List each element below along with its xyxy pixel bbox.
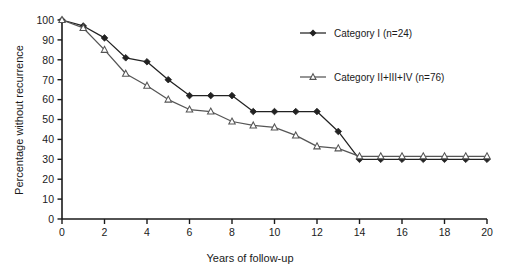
x-axis-tick-label: 16 [396, 226, 408, 238]
x-axis-tick-label: 8 [229, 226, 235, 238]
y-axis-tick-label: 10 [42, 193, 54, 205]
y-axis-title: Percentage without recurrence [13, 45, 25, 195]
x-axis-tick-label: 6 [187, 226, 193, 238]
y-axis-tick-label: 50 [42, 113, 54, 125]
legend-label: Category I (n=24) [334, 28, 412, 39]
x-axis-title: Years of follow-up [206, 252, 293, 264]
x-axis-tick-label: 18 [439, 226, 451, 238]
x-axis-tick-label: 10 [269, 226, 281, 238]
y-axis-tick-label: 70 [42, 74, 54, 86]
x-axis-tick-label: 20 [481, 226, 493, 238]
y-axis-tick-label: 60 [42, 93, 54, 105]
y-axis-tick-label: 100 [36, 14, 54, 26]
y-axis-tick-label: 40 [42, 133, 54, 145]
legend-label: Category II+III+IV (n=76) [334, 72, 444, 83]
x-axis-tick-label: 0 [59, 226, 65, 238]
y-axis-tick-label: 0 [48, 213, 54, 225]
x-axis-tick-label: 12 [311, 226, 323, 238]
kaplan-meier-chart: 0102030405060708090100 02468101214161820… [0, 0, 508, 277]
chart-background [0, 0, 508, 277]
y-axis-tick-label: 90 [42, 34, 54, 46]
x-axis-tick-label: 14 [354, 226, 366, 238]
y-axis-tick-label: 30 [42, 153, 54, 165]
x-axis-tick-label: 2 [102, 226, 108, 238]
x-axis-tick-label: 4 [144, 226, 150, 238]
survival-chart-figure: 0102030405060708090100 02468101214161820… [0, 0, 508, 277]
y-axis-tick-label: 20 [42, 173, 54, 185]
y-axis-tick-label: 80 [42, 54, 54, 66]
